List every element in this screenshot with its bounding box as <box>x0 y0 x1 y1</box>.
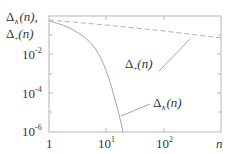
y-ticks <box>49 35 221 112</box>
series-delta-plus <box>49 20 221 38</box>
annotation-delta-plus: Δ+(n) <box>125 56 153 73</box>
x-ticks <box>106 16 164 132</box>
annotation-delta-wedge: Δ∧(n) <box>153 95 182 112</box>
y-tick-label-1e-4: 10-4 <box>22 85 42 101</box>
y-axis-label-line2: Δ+(n) <box>6 26 34 43</box>
annotation-leader-delta-wedge <box>121 104 150 116</box>
x-axis-label: n <box>216 136 223 151</box>
series-delta-wedge <box>49 21 123 132</box>
plot-frame <box>49 16 221 132</box>
x-tick-label-10: 101 <box>98 135 115 151</box>
y-tick-label-1e-2: 10-2 <box>22 46 42 62</box>
x-tick-label-1: 1 <box>46 136 53 151</box>
annotation-leader-delta-plus <box>159 39 190 71</box>
y-tick-label-1e-6: 10-6 <box>22 123 42 139</box>
chart: 10-2 10-4 10-6 1 101 102 n Δ∧(n), Δ+(n) … <box>0 0 232 154</box>
y-axis-label-line1: Δ∧(n), <box>6 9 38 26</box>
x-tick-label-100: 102 <box>156 135 173 151</box>
